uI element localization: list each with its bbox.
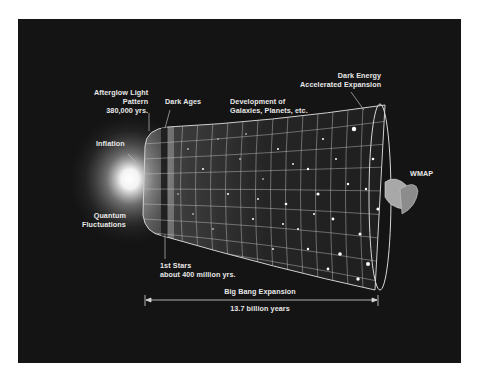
first-stars-line-1: 1st Stars xyxy=(160,261,236,270)
dark-energy-line-2: Accelerated Expansion xyxy=(300,80,381,89)
dark-ages-text: Dark Ages xyxy=(165,97,201,106)
dark-ages-label: Dark Ages xyxy=(165,97,201,106)
dark-energy-leader-line xyxy=(351,92,364,110)
quantum-fluctuations-label: Quantum Fluctuations xyxy=(82,211,126,229)
afterglow-line-1: Afterglow Light xyxy=(94,88,148,97)
wmap-label: WMAP xyxy=(410,169,433,178)
inflation-label: Inflation xyxy=(96,139,125,148)
development-line-1: Development of xyxy=(230,97,308,106)
development-label: Development of Galaxies, Planets, etc. xyxy=(230,97,308,115)
quantum-line-2: Fluctuations xyxy=(82,220,126,229)
universe-timeline-figure: Afterglow Light Pattern 380,000 yrs. Dar… xyxy=(18,19,461,363)
inflation-text: Inflation xyxy=(96,139,125,148)
expansion-title: Big Bang Expansion xyxy=(215,287,305,296)
expansion-title-text: Big Bang Expansion xyxy=(215,287,305,296)
expansion-duration: 13.7 billion years xyxy=(215,304,305,313)
afterglow-line-2: Pattern xyxy=(94,97,148,106)
first-stars-line-2: about 400 million yrs. xyxy=(160,270,236,279)
wmap-text: WMAP xyxy=(410,169,433,178)
development-line-2: Galaxies, Planets, etc. xyxy=(230,106,308,115)
afterglow-label: Afterglow Light Pattern 380,000 yrs. xyxy=(94,88,148,115)
wmap-satellite-icon xyxy=(385,179,418,214)
dark-ages-leader-line xyxy=(165,110,170,128)
dark-energy-line-1: Dark Energy xyxy=(300,71,381,80)
afterglow-line-3: 380,000 yrs. xyxy=(94,106,148,115)
first-stars-label: 1st Stars about 400 million yrs. xyxy=(160,261,236,279)
quantum-line-1: Quantum xyxy=(82,211,126,220)
dark-energy-label: Dark Energy Accelerated Expansion xyxy=(300,71,381,89)
expansion-duration-text: 13.7 billion years xyxy=(215,304,305,313)
